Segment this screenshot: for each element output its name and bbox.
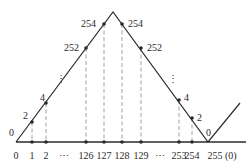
triangle-wave-line <box>16 12 240 142</box>
tick-label: ⋯ <box>59 150 69 161</box>
label-left-2: 2 <box>23 110 28 121</box>
tick-label: 2 <box>44 150 49 161</box>
tick-label: 127 <box>97 150 112 161</box>
tick-label: 128 <box>115 150 130 161</box>
tick-label: 126 <box>79 150 94 161</box>
label-right-2: 2 <box>197 112 202 123</box>
label-left-0: 0 <box>9 127 14 138</box>
label-right-254: 254 <box>128 18 143 29</box>
triangle-wave-diagram: 0 2 4 ⋮ 252 254 254 252 ⋮ 4 2 0 0 1 2 ⋯ … <box>0 0 251 167</box>
axis-tick-labels: 0 1 2 ⋯ 126 127 128 129 ⋯ 253 254 255 (0… <box>14 150 237 162</box>
label-left-dots: ⋮ <box>56 73 66 84</box>
label-right-dots: ⋮ <box>168 73 178 84</box>
tick-label: 1 <box>30 150 35 161</box>
tick-label: 0 <box>14 150 19 161</box>
tick-label: 254 <box>185 150 200 161</box>
label-right-252: 252 <box>147 42 162 53</box>
value-labels: 0 2 4 ⋮ 252 254 254 252 ⋮ 4 2 0 <box>9 18 211 138</box>
label-left-4: 4 <box>40 92 45 103</box>
label-left-252: 252 <box>64 42 79 53</box>
tick-label: 255 (0) <box>207 150 236 162</box>
label-right-0: 0 <box>206 127 211 138</box>
tick-label: 129 <box>134 150 149 161</box>
label-right-4: 4 <box>184 92 189 103</box>
label-left-254: 254 <box>81 18 96 29</box>
tick-label: ⋯ <box>155 150 165 161</box>
